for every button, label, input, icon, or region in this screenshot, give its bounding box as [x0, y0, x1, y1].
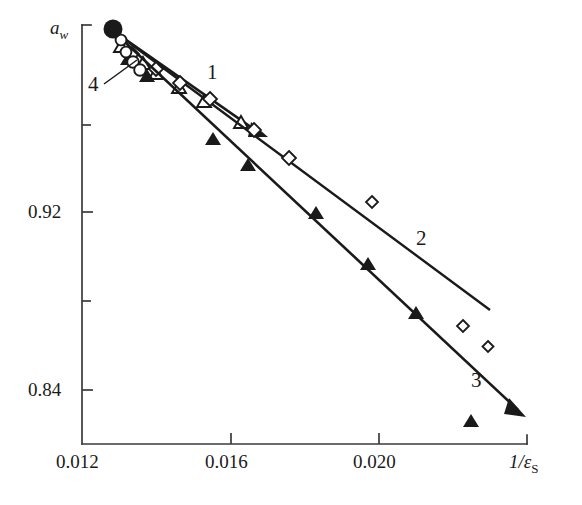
- y-tick-label-0: 0.92: [28, 202, 61, 221]
- origin-point-marker: [104, 20, 123, 39]
- x-tick-label-0: 0.012: [56, 452, 99, 471]
- y-axis-title: aw: [50, 18, 68, 41]
- y-axis-ticks: [82, 125, 93, 390]
- axis-frame: [82, 25, 527, 444]
- x-axis-ticks: [231, 433, 379, 444]
- curve-label-1: 1: [207, 62, 218, 83]
- series-3-line: [112, 30, 526, 417]
- series-4-markers: [116, 35, 146, 76]
- series-2-line: [112, 30, 490, 310]
- curve-label-3: 3: [471, 370, 482, 391]
- curve-label-4: 4: [88, 74, 99, 95]
- series-4-leader-line: [104, 60, 137, 84]
- x-tick-label-1: 0.016: [205, 452, 248, 471]
- x-tick-label-2: 0.020: [353, 452, 396, 471]
- x-axis-title: 1/εS: [509, 452, 539, 475]
- y-tick-label-1: 0.84: [28, 380, 61, 399]
- curve-label-2: 2: [416, 228, 427, 249]
- figure-canvas: aw 0.92 0.84 0.012 0.016 0.020 1/εS 1 2 …: [0, 0, 582, 505]
